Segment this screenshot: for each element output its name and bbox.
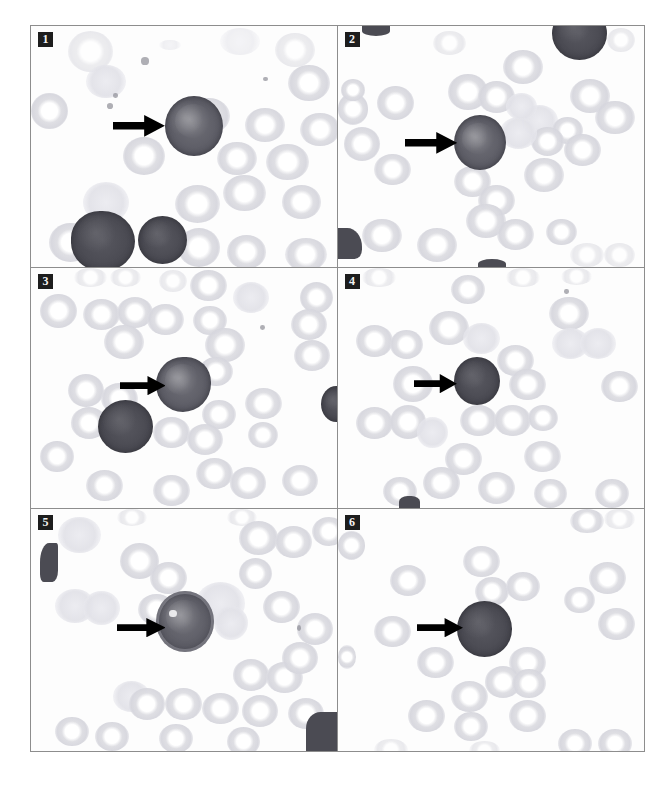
erythrocyte — [390, 330, 424, 359]
panel-4-field — [338, 268, 645, 509]
erythrocyte — [123, 137, 166, 176]
erythrocyte — [230, 467, 267, 498]
erythrocyte — [117, 509, 148, 526]
erythrocyte — [417, 417, 448, 448]
erythrocyte — [187, 424, 224, 455]
erythrocyte — [506, 93, 537, 119]
erythrocyte — [110, 268, 141, 287]
panel-2[interactable]: 2 — [338, 26, 645, 268]
erythrocyte — [104, 325, 144, 359]
panel-2-label: 2 — [345, 32, 360, 47]
panel-5-field — [31, 509, 337, 751]
erythrocyte — [263, 591, 300, 622]
erythrocyte — [601, 371, 638, 402]
arrowed-cell-6[interactable] — [457, 601, 512, 657]
dark-debris — [40, 543, 58, 582]
erythrocyte — [374, 616, 411, 647]
pointer-arrow-2 — [405, 132, 457, 154]
erythrocyte — [408, 700, 445, 731]
erythrocyte — [356, 407, 393, 438]
panel-4[interactable]: 4 — [338, 268, 645, 510]
erythrocyte — [558, 729, 592, 751]
panel-6-field — [338, 509, 645, 751]
erythrocyte — [451, 275, 485, 304]
erythrocyte — [463, 323, 500, 354]
erythrocyte — [159, 724, 193, 751]
erythrocyte — [165, 688, 202, 719]
erythrocyte — [604, 243, 635, 267]
erythrocyte — [196, 458, 233, 489]
erythrocyte — [239, 558, 273, 589]
panel-1[interactable]: 1 — [31, 26, 338, 268]
panel-4-label: 4 — [345, 274, 360, 289]
erythrocyte — [595, 479, 629, 508]
erythrocyte — [83, 591, 120, 625]
arrowed-cell-1[interactable] — [165, 96, 223, 156]
erythrocyte — [598, 608, 635, 639]
erythrocyte — [150, 562, 187, 593]
panel-5-label: 5 — [38, 515, 53, 530]
dark-cell — [138, 216, 187, 264]
erythrocyte — [570, 243, 604, 267]
dark-cell — [552, 26, 607, 60]
erythrocyte — [147, 304, 184, 335]
panel-2-field — [338, 26, 645, 267]
erythrocyte — [40, 441, 74, 472]
dark-cell — [98, 400, 153, 453]
platelet-speck — [263, 77, 268, 82]
erythrocyte — [217, 142, 257, 176]
erythrocyte — [463, 546, 500, 577]
arrowed-cell-4[interactable] — [454, 357, 500, 405]
pointer-arrow-3 — [120, 376, 166, 395]
erythrocyte — [175, 185, 221, 224]
panel-3-label: 3 — [38, 274, 53, 289]
erythrocyte — [374, 154, 411, 185]
dark-debris — [399, 496, 420, 509]
erythrocyte — [220, 28, 260, 54]
panel-3-field — [31, 268, 337, 509]
pointer-arrow-6 — [417, 618, 463, 637]
erythrocyte — [248, 422, 279, 448]
erythrocyte — [74, 268, 108, 287]
erythrocyte — [390, 565, 427, 596]
erythrocyte — [598, 729, 632, 751]
erythrocyte — [607, 28, 635, 52]
erythrocyte — [58, 517, 101, 553]
erythrocyte — [509, 700, 546, 731]
erythrocyte — [129, 688, 166, 719]
erythrocyte — [506, 572, 540, 601]
erythrocyte — [202, 693, 239, 724]
erythrocyte — [433, 31, 467, 55]
erythrocyte — [338, 645, 356, 669]
erythrocyte — [233, 659, 270, 690]
panel-6[interactable]: 6 — [338, 509, 645, 751]
erythrocyte — [68, 374, 105, 408]
erythrocyte — [374, 739, 408, 751]
pointer-arrow-5 — [117, 618, 166, 637]
erythrocyte — [534, 479, 568, 508]
erythrocyte — [233, 282, 270, 313]
dark-debris — [478, 259, 506, 267]
platelet-speck — [564, 289, 568, 293]
erythrocyte — [356, 325, 393, 356]
erythrocyte — [95, 722, 129, 751]
erythrocyte — [423, 467, 460, 498]
erythrocyte — [239, 521, 279, 555]
erythrocyte — [417, 228, 457, 262]
erythrocyte — [266, 144, 309, 180]
dark-cell — [321, 386, 337, 422]
platelet-speck — [107, 103, 113, 109]
figure-frame: 1 — [30, 25, 645, 752]
erythrocyte — [31, 93, 68, 129]
erythrocyte — [282, 465, 319, 496]
erythrocyte — [460, 405, 497, 436]
erythrocyte — [159, 40, 180, 50]
erythrocyte — [282, 642, 319, 673]
panel-3[interactable]: 3 — [31, 268, 338, 510]
erythrocyte — [86, 65, 126, 99]
erythrocyte — [564, 587, 595, 614]
erythrocyte — [190, 270, 227, 301]
erythrocyte — [338, 531, 366, 560]
panel-5[interactable]: 5 — [31, 509, 338, 751]
arrowed-cell-2[interactable] — [454, 115, 506, 170]
